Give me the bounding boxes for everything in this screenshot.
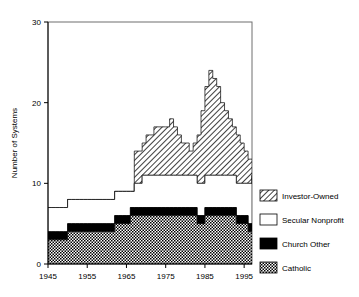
- x-tick-label: 1945: [39, 272, 57, 281]
- y-tick-label: 30: [32, 18, 41, 27]
- legend-label-investor-owned: Investor-Owned: [282, 192, 338, 201]
- y-tick-label: 20: [32, 99, 41, 108]
- y-tick-label: 0: [37, 260, 42, 269]
- chart-container: 3020100 Number of Systems 19451955196519…: [0, 0, 359, 297]
- legend-label-church-other: Church Other: [282, 240, 330, 249]
- x-tick-label: 1965: [118, 272, 136, 281]
- legend-swatch-investor-owned: [260, 190, 277, 201]
- x-tick-label: 1955: [78, 272, 96, 281]
- legend-item-secular-nonprofit[interactable]: Secular Nonprofit: [260, 214, 345, 225]
- legend-swatch-church-other: [260, 238, 277, 249]
- legend-item-church-other[interactable]: Church Other: [260, 238, 330, 249]
- legend-swatch-secular-nonprofit: [260, 214, 277, 225]
- legend-label-secular-nonprofit: Secular Nonprofit: [282, 216, 345, 225]
- legend-swatch-catholic: [260, 262, 277, 273]
- legend-item-catholic[interactable]: Catholic: [260, 262, 311, 273]
- stacked-area-chart: 3020100 Number of Systems 19451955196519…: [0, 0, 359, 297]
- y-axis-title: Number of Systems: [10, 108, 19, 178]
- x-tick-label: 1995: [235, 272, 253, 281]
- x-tick-label: 1975: [157, 272, 175, 281]
- x-tick-label: 1985: [196, 272, 214, 281]
- legend-item-investor-owned[interactable]: Investor-Owned: [260, 190, 338, 201]
- legend-label-catholic: Catholic: [282, 264, 311, 273]
- y-tick-label: 10: [32, 179, 41, 188]
